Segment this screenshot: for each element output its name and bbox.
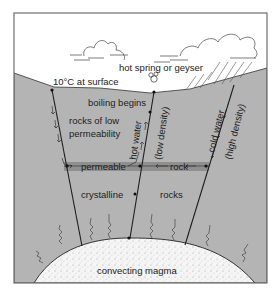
geothermal-diagram: hot spring or geyser 10°C at surface boi… <box>0 0 279 294</box>
label-low-perm-1: rocks of low <box>69 115 119 126</box>
label-permeable: permeable <box>81 161 126 172</box>
label-rocks: rocks <box>160 189 183 200</box>
label-magma: convecting magma <box>97 265 177 276</box>
label-boiling: boiling begins <box>88 97 146 108</box>
label-surface-temp: 10°C at surface <box>53 76 119 87</box>
label-rock: rock <box>170 161 188 172</box>
label-hot-spring: hot spring or geyser <box>119 62 203 73</box>
label-low-perm-2: permeability <box>69 128 120 139</box>
label-crystalline: crystalline <box>81 189 123 200</box>
